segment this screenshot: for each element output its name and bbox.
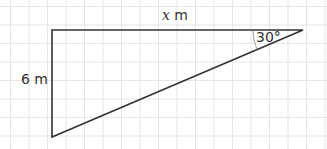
diagram-svg: x m 6 m 30° xyxy=(0,0,327,149)
top-side-label: x m xyxy=(162,7,188,23)
angle-label: 30° xyxy=(256,29,281,45)
triangle-diagram: x m 6 m 30° xyxy=(0,0,327,149)
left-side-label: 6 m xyxy=(21,71,48,87)
